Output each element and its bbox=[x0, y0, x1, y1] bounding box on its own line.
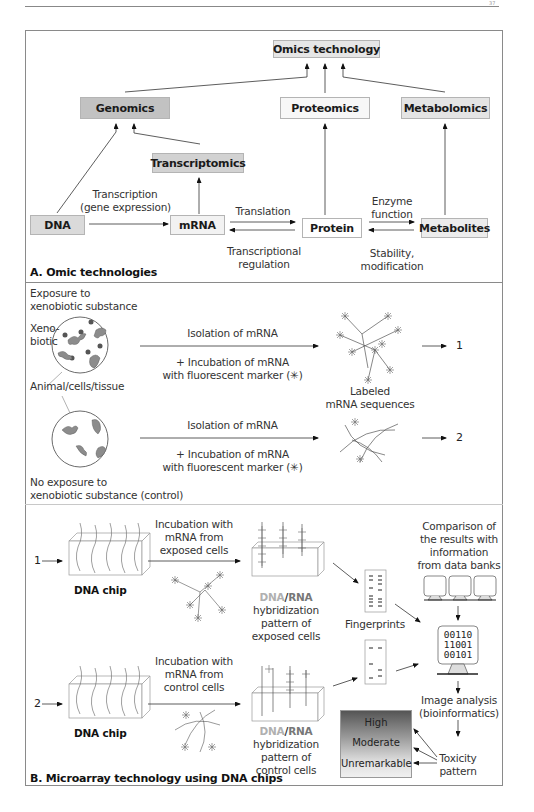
control-mrna-illustration bbox=[175, 710, 220, 752]
hyb-dna-text: DNA bbox=[259, 725, 284, 737]
row1-incubation-2: mRNA from bbox=[148, 531, 240, 544]
exposure-label-1: Exposure to bbox=[30, 287, 90, 300]
xenobiotic-label-2: biotic bbox=[30, 335, 58, 348]
comparison-label-1: Comparison of bbox=[415, 520, 503, 533]
diagram-connectors bbox=[0, 0, 534, 812]
node-dna: DNA bbox=[30, 215, 85, 235]
image-analysis-label-1: Image analysis bbox=[415, 694, 503, 707]
fingerprint-2 bbox=[365, 640, 386, 684]
toxicity-level-high: High bbox=[341, 717, 411, 728]
exposure-label-2: xenobiotic substance bbox=[30, 300, 137, 313]
node-mrna: mRNA bbox=[170, 215, 225, 235]
animal-cells-tissue-label: Animal/cells/tissue bbox=[30, 380, 124, 393]
label-gene-expression: (gene expression) bbox=[80, 201, 170, 214]
node-omics-technology: Omics technology bbox=[273, 40, 380, 58]
node-genomics: Genomics bbox=[80, 97, 170, 119]
label-stability: Stability, bbox=[357, 247, 427, 260]
labeled-mrna-label-2: mRNA sequences bbox=[325, 398, 415, 411]
row1-hyb-label-1: DNA/RNA bbox=[244, 591, 328, 604]
input-number-2: 2 bbox=[34, 697, 41, 710]
output-number-1: 1 bbox=[456, 339, 463, 352]
row2-incubation-1: Incubation with bbox=[148, 655, 240, 668]
row2-incubation-3: control cells bbox=[148, 681, 240, 694]
row1-hyb-label-3: pattern of bbox=[244, 617, 328, 630]
toxicity-level-unremarkable: Unremarkable bbox=[341, 758, 411, 769]
label-modification: modification bbox=[357, 260, 427, 273]
exposed-mrna-illustration bbox=[171, 571, 226, 622]
fingerprint-1 bbox=[365, 570, 386, 612]
panel-a-caption: A. Omic technologies bbox=[30, 266, 157, 279]
label-translation: Translation bbox=[228, 205, 298, 218]
labeled-mrna-label-1: Labeled bbox=[325, 385, 415, 398]
control-label-2: xenobiotic substance (control) bbox=[30, 489, 183, 502]
hyb-rna-text: RNA bbox=[288, 591, 312, 603]
toxicity-label-2: pattern bbox=[430, 765, 486, 778]
label-enzyme: Enzyme bbox=[362, 195, 422, 208]
row1-incubation-3: exposed cells bbox=[148, 544, 240, 557]
dna-chip-1 bbox=[69, 523, 150, 575]
fingerprints-label: Fingerprints bbox=[340, 618, 410, 631]
input-number-1: 1 bbox=[34, 554, 41, 567]
row2-incubation-2: mRNA from bbox=[148, 668, 240, 681]
row2-isolation-label: Isolation of mRNA bbox=[145, 419, 320, 432]
toxicity-label-1: Toxicity bbox=[430, 752, 486, 765]
hyb-dna-text: DNA bbox=[259, 591, 284, 603]
toxicity-level-moderate: Moderate bbox=[341, 737, 411, 748]
hybridization-chip-2 bbox=[252, 665, 324, 721]
row1-incubation-label-1: + Incubation of mRNA bbox=[145, 356, 320, 369]
row2-hyb-label-3: pattern of bbox=[244, 751, 328, 764]
binary-line-3: 00101 bbox=[438, 650, 478, 660]
dna-chip-2-label: DNA chip bbox=[74, 727, 127, 739]
data-bank-computers bbox=[424, 576, 496, 600]
dna-chip-1-label: DNA chip bbox=[74, 584, 127, 596]
row2-hyb-label-1: DNA/RNA bbox=[244, 725, 328, 738]
hybridization-chip-1 bbox=[252, 522, 324, 576]
row2-hyb-label-2: hybridization bbox=[244, 738, 328, 751]
output-number-2: 2 bbox=[456, 431, 463, 444]
node-protein: Protein bbox=[302, 218, 362, 238]
comparison-label-2: the results with bbox=[415, 533, 503, 546]
control-label-1: No exposure to bbox=[30, 476, 107, 489]
row1-hyb-label-2: hybridization bbox=[244, 604, 328, 617]
row2-incubation-label-1: + Incubation of mRNA bbox=[145, 448, 320, 461]
labeled-mrna-cluster bbox=[336, 312, 402, 384]
label-regulation: regulation bbox=[224, 258, 304, 271]
image-analysis-label-2: (bioinformatics) bbox=[415, 707, 503, 720]
control-tissue-illustration bbox=[52, 396, 108, 467]
node-proteomics: Proteomics bbox=[280, 97, 370, 119]
node-transcriptomics: Transcriptomics bbox=[152, 153, 244, 173]
comparison-label-4: from data banks bbox=[415, 559, 503, 572]
panel-b-caption: B. Microarray technology using DNA chips bbox=[30, 772, 283, 785]
row1-incubation-label-2: with fluorescent marker (✳) bbox=[145, 369, 320, 382]
control-mrna-cluster bbox=[340, 418, 398, 463]
toxicity-scale: High Moderate Unremarkable bbox=[340, 710, 412, 778]
dna-chip-2 bbox=[69, 666, 150, 718]
node-metabolomics: Metabolomics bbox=[401, 97, 490, 119]
label-transcriptional: Transcriptional bbox=[224, 245, 304, 258]
xenobiotic-label-1: Xeno- bbox=[30, 322, 59, 335]
label-transcription: Transcription bbox=[80, 188, 170, 201]
row1-hyb-label-4: exposed cells bbox=[244, 630, 328, 643]
node-metabolites: Metabolites bbox=[421, 218, 488, 238]
row1-incubation-1: Incubation with bbox=[148, 518, 240, 531]
comparison-label-3: information bbox=[415, 546, 503, 559]
row1-isolation-label: Isolation of mRNA bbox=[145, 327, 320, 340]
hyb-rna-text: RNA bbox=[288, 725, 312, 737]
row2-incubation-label-2: with fluorescent marker (✳) bbox=[145, 461, 320, 474]
label-function: function bbox=[362, 208, 422, 221]
